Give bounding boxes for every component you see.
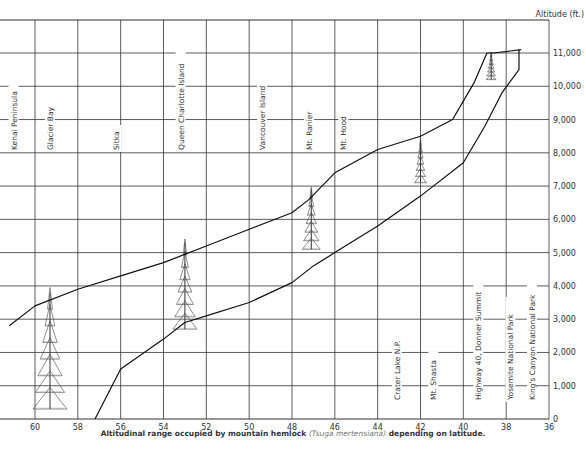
tree-icon [486, 52, 496, 80]
caption-scientific-name: (Tsuga mertensiana) [309, 429, 386, 438]
y-tick-label: 6,000 [553, 215, 576, 224]
place-label: Yosemite National Park [506, 313, 515, 401]
hemlock-altitude-chart: Kenai PeninsulaGlacier BaySitkaQueen Cha… [0, 0, 586, 454]
tree-icon [302, 187, 320, 249]
y-tick-label: 10,000 [553, 82, 581, 91]
tree-icon [415, 138, 427, 183]
caption-prefix: Altitudinal range occupied by mountain h… [101, 429, 307, 438]
y-tick-label: 2,000 [553, 348, 576, 357]
place-label: Mt. Hood [339, 116, 348, 150]
place-label: Glacier Bay [46, 106, 55, 150]
y-tick-label: 4,000 [553, 282, 576, 291]
y-tick-label: 0 [553, 415, 558, 424]
y-tick-label: 8,000 [553, 149, 576, 158]
y-tick-label: 5,000 [553, 249, 576, 258]
place-label: Highway 40, Donner Summit [474, 292, 483, 400]
tree-icon [33, 288, 67, 409]
y-tick-label: 11,000 [553, 49, 581, 58]
y-tick-label: 7,000 [553, 182, 576, 191]
y-axis-title: Altitude (ft.) [536, 10, 584, 19]
place-labels: Kenai PeninsulaGlacier BaySitkaQueen Cha… [9, 47, 537, 402]
caption-suffix: depending on latitude. [389, 429, 486, 438]
place-label: Queen Charlotte Island [177, 63, 186, 150]
place-label: Mt. Ranier [305, 111, 314, 150]
place-label: King's Canyon National Park [528, 294, 537, 400]
y-tick-label: 9,000 [553, 116, 576, 125]
place-label: Kenai Peninsula [10, 91, 19, 150]
chart-caption: Altitudinal range occupied by mountain h… [0, 429, 586, 438]
place-label: Crater Lake N.P. [393, 340, 402, 400]
place-label: Sitka [112, 131, 121, 150]
y-tick-label: 3,000 [553, 315, 576, 324]
place-label: Mt. Shasta [429, 360, 438, 400]
y-tick-label: 1,000 [553, 382, 576, 391]
place-label: Vancouver Island [258, 86, 267, 150]
